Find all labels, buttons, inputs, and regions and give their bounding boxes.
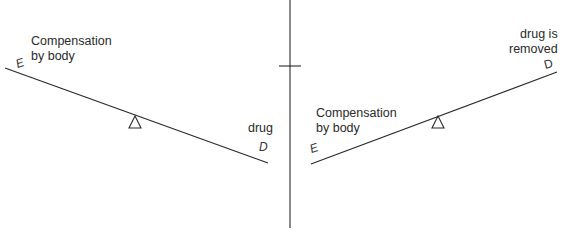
right-drug-removed-label: drug is removed xyxy=(509,27,558,57)
left-fulcrum-icon xyxy=(129,116,141,128)
left-seesaw-beam xyxy=(5,68,268,163)
right-compensation-line2: by body xyxy=(316,121,397,136)
left-compensation-label: Compensation by body xyxy=(31,34,112,64)
right-drug-removed-line2: removed xyxy=(509,42,558,57)
left-d-letter: D xyxy=(259,140,268,154)
right-compensation-line1: Compensation xyxy=(316,106,397,121)
right-compensation-label: Compensation by body xyxy=(316,106,397,136)
left-compensation-line2: by body xyxy=(31,49,112,64)
right-drug-removed-line1: drug is xyxy=(509,27,558,42)
left-compensation-line1: Compensation xyxy=(31,34,112,49)
left-drug-label: drug xyxy=(248,121,273,136)
